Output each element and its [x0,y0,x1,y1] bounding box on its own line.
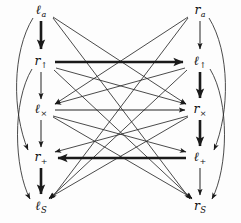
edge-r_up-to-l_s-arc [18,69,33,199]
node-r_a-subscript: a [201,10,206,18]
edge-l_a-to-r_s [53,18,190,199]
node-r_up-subscript: ↑ [41,61,48,69]
node-r_p-base: r [34,149,40,164]
node-r_a-base: r [194,2,200,17]
node-l_up-subscript: ↑ [199,61,206,69]
node-r_up-base: r [34,53,40,68]
node-r_s-base: r [194,198,200,213]
node-l_s-subscript: S [41,206,47,215]
node-r_a[interactable]: ra [194,4,205,19]
node-l_a-subscript: a [41,10,46,18]
node-l_a[interactable]: ℓa [36,4,46,19]
node-l_s[interactable]: ℓS [35,200,46,214]
node-r_up[interactable]: r↑ [34,55,47,70]
node-l_p-base: ℓ [194,149,199,164]
node-l_x[interactable]: ℓ× [35,103,47,118]
node-l_up[interactable]: ℓ↑ [194,55,206,70]
diagram-canvas: ℓa r↑ ℓ× r+ ℓS ra ℓ↑ r× ℓ+ rS [0,0,241,223]
node-r_s[interactable]: rS [194,200,206,214]
edge-r_x-to-r_p [55,116,188,152]
edge-l_up-to-l_s [49,70,187,199]
node-r_x-base: r [193,101,199,116]
node-r_s-subscript: S [200,206,206,215]
node-r_p[interactable]: r+ [34,151,47,166]
edge-group-horizontals [55,62,186,158]
edge-l_x-to-l_p [53,116,186,152]
node-l_p[interactable]: ℓ+ [194,151,206,166]
edge-r_up-to-r_s [54,70,192,199]
node-r_x[interactable]: r× [193,103,206,118]
node-r_p-subscript: + [41,157,48,165]
edge-r_a-to-l_x [55,17,188,104]
node-l_up-base: ℓ [194,53,199,68]
edge-l_a-to-r_x [53,17,186,104]
node-l_a-base: ℓ [36,2,41,17]
node-l_p-subscript: + [199,157,206,165]
node-l_s-base: ℓ [35,198,40,213]
node-l_x-base: ℓ [35,101,40,116]
node-l_x-subscript: × [40,109,47,117]
edge-l_up-to-r_s-arc [210,69,225,199]
edge-group-diagonals [49,17,192,199]
edge-group-verticals [41,21,200,195]
node-r_x-subscript: × [200,109,207,117]
edge-r_a-to-l_s [51,18,188,199]
